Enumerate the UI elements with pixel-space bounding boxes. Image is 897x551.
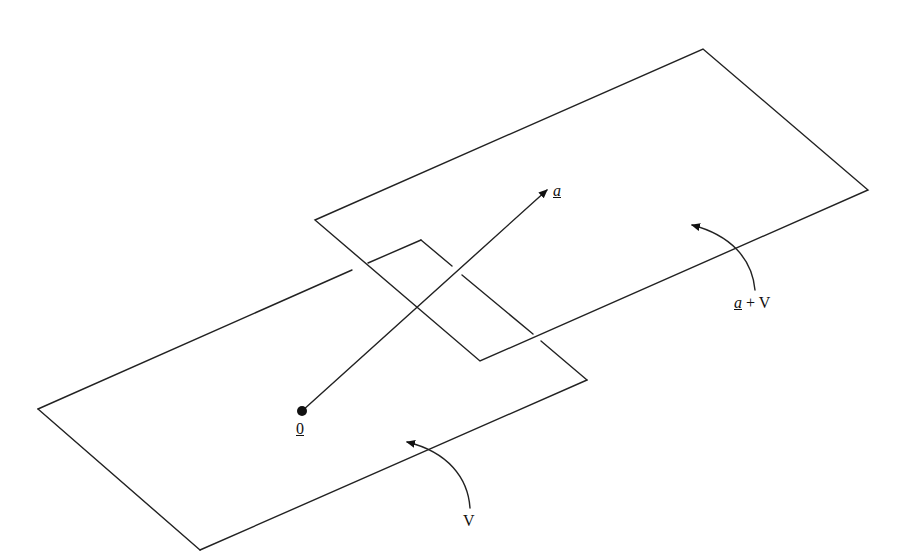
origin-text: 0 bbox=[296, 420, 304, 437]
plane-v-label: V bbox=[463, 512, 475, 530]
origin-dot bbox=[297, 406, 307, 416]
vector-a-label: a bbox=[553, 182, 561, 200]
diagram-canvas bbox=[0, 0, 897, 551]
vector-a-text: a bbox=[553, 182, 561, 199]
plane-a-plus-v-label: a + V bbox=[734, 294, 770, 312]
a-plus-v-space-text: V bbox=[759, 294, 771, 311]
pointer-arrow-a-plus-v bbox=[692, 225, 755, 290]
a-plus-v-vector-text: a bbox=[734, 294, 742, 311]
plane-a-plus-v bbox=[315, 49, 868, 361]
pointer-arrow-v bbox=[407, 442, 470, 508]
a-plus-v-op-text: + bbox=[746, 294, 755, 311]
vector-a-arrow bbox=[302, 190, 547, 411]
origin-label: 0 bbox=[296, 420, 304, 438]
plane-v bbox=[38, 240, 587, 550]
plane-v-text: V bbox=[463, 512, 475, 529]
